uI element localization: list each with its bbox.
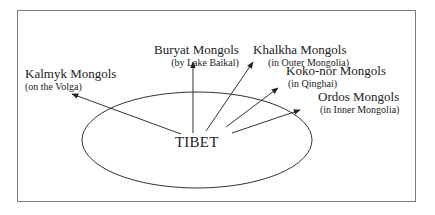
arrow-kokonor xyxy=(226,88,278,127)
destination-buryat: Buryat Mongols (by Lake Baikal) xyxy=(154,43,239,68)
tibet-label: TIBET xyxy=(175,134,219,151)
destination-location: (in Qinghai) xyxy=(286,79,386,89)
destination-location: (by Lake Baikal) xyxy=(154,58,239,68)
destination-name: Koko-nor Mongols xyxy=(286,64,386,77)
destination-name: Buryat Mongols xyxy=(154,43,239,56)
destination-name: Kalmyk Mongols xyxy=(25,67,116,80)
destination-name: Ordos Mongols xyxy=(318,90,399,103)
destination-location: (on the Volga) xyxy=(25,82,116,92)
destination-kalmyk: Kalmyk Mongols (on the Volga) xyxy=(25,67,116,92)
destination-kokonor: Koko-nor Mongols (in Qinghai) xyxy=(286,64,386,89)
destination-location: (in Inner Mongolia) xyxy=(318,105,399,115)
arrow-kalmyk xyxy=(72,94,181,134)
destination-name: Khalkha Mongols xyxy=(253,43,349,56)
destination-ordos: Ordos Mongols (in Inner Mongolia) xyxy=(318,90,399,115)
arrow-ordos xyxy=(232,110,300,133)
